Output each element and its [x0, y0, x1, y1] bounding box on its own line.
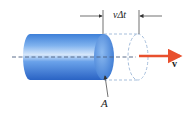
area-label: A: [101, 98, 108, 109]
flow-tube-diagram: vΔt v A: [0, 0, 191, 115]
velocity-label: v: [172, 59, 177, 69]
displacement-label: vΔt: [113, 10, 126, 20]
diagram-canvas: [0, 0, 191, 115]
